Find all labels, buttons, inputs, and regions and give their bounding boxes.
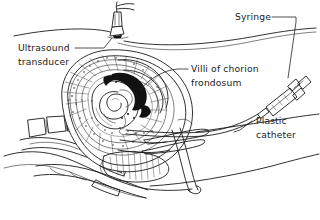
label-plastic-catheter-line2: catheter bbox=[256, 129, 296, 140]
transducer-head bbox=[110, 26, 124, 36]
label-plastic-catheter-line1: Plastic bbox=[256, 115, 287, 126]
leader-syringe bbox=[272, 17, 296, 78]
abdominal-wall-curve bbox=[14, 29, 117, 37]
transducer-cable-branch-1 bbox=[117, 4, 134, 6]
vertebra-1 bbox=[28, 118, 46, 137]
label-syringe: Syringe bbox=[235, 11, 271, 22]
label-villi-line1: Villi of chorion bbox=[191, 63, 259, 74]
label-ultrasound-transducer-line1: Ultrasound bbox=[18, 42, 70, 53]
diagram-canvas: Ultrasound transducer Villi of chorion f… bbox=[0, 0, 320, 220]
label-villi-line2: frondosum bbox=[191, 77, 242, 88]
ultrasound-transducer bbox=[108, 2, 134, 39]
vertebra-2 bbox=[47, 116, 66, 133]
abdominal-wall-inner bbox=[118, 32, 316, 50]
speculum-handle-tip bbox=[188, 186, 201, 194]
syringe-barrel bbox=[266, 88, 297, 116]
cvs-diagram-figure: Ultrasound transducer Villi of chorion f… bbox=[0, 0, 320, 220]
thigh-contour-lower bbox=[150, 154, 319, 186]
transducer-body bbox=[112, 12, 122, 27]
transducer-cable-branch-2 bbox=[117, 8, 134, 10]
vertebra-joint-1 bbox=[46, 120, 47, 132]
leader-ultrasound-transducer bbox=[75, 38, 112, 48]
syringe-plunger-thumbrest bbox=[298, 76, 311, 89]
abdominal-wall-curve-right bbox=[124, 28, 316, 45]
syringe bbox=[258, 76, 311, 118]
label-ultrasound-transducer-line2: transducer bbox=[18, 56, 69, 67]
transducer-cable bbox=[116, 2, 117, 12]
